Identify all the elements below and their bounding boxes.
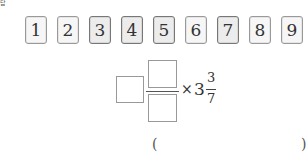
whole-number-blank[interactable] bbox=[116, 76, 144, 103]
number-card-5[interactable]: 5 bbox=[153, 16, 175, 44]
number-card-2[interactable]: 2 bbox=[57, 16, 79, 44]
mixed-fraction-bar bbox=[206, 89, 216, 90]
number-card-8[interactable]: 8 bbox=[249, 16, 271, 44]
number-card-7[interactable]: 7 bbox=[217, 16, 239, 44]
number-card-4[interactable]: 4 bbox=[121, 16, 143, 44]
number-card-6[interactable]: 6 bbox=[185, 16, 207, 44]
mixed-number-numerator: 3 bbox=[207, 70, 215, 85]
number-card-9[interactable]: 9 bbox=[281, 16, 303, 44]
fraction-bar bbox=[146, 91, 179, 92]
number-cards: 1 2 3 4 5 6 7 8 9 bbox=[25, 16, 303, 44]
answer-open-paren: ( bbox=[152, 136, 157, 152]
answer-close-paren: ) bbox=[301, 136, 306, 152]
number-card-3[interactable]: 3 bbox=[89, 16, 111, 44]
times-symbol: × bbox=[181, 81, 193, 97]
numerator-blank[interactable] bbox=[148, 60, 177, 88]
corner-label: 답 bbox=[0, 0, 6, 5]
mixed-number-whole: 3 bbox=[194, 79, 205, 99]
number-card-1[interactable]: 1 bbox=[25, 16, 47, 44]
denominator-blank[interactable] bbox=[148, 94, 177, 122]
mixed-number-denominator: 7 bbox=[207, 91, 215, 106]
math-expression: × 3 3 7 bbox=[116, 60, 266, 120]
